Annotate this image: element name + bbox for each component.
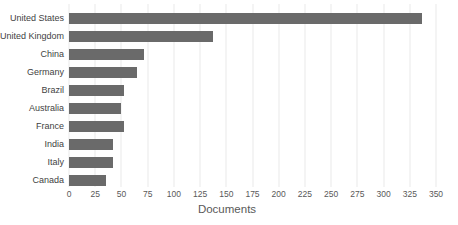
category-label: China (0, 49, 64, 59)
x-tick-label: 125 (193, 189, 207, 199)
category-label: India (0, 139, 64, 149)
x-tick-label: 325 (403, 189, 417, 199)
x-tick-label: 150 (219, 189, 233, 199)
gridline (226, 4, 227, 187)
x-axis-tick-labels: 0255075100125150175200225250275300325350 (0, 189, 458, 201)
gridline (252, 4, 253, 187)
x-axis-title: Documents (198, 203, 256, 215)
gridline (357, 4, 358, 187)
plot-area (69, 4, 436, 187)
x-tick-label: 250 (324, 189, 338, 199)
bar-brazil (69, 85, 124, 96)
category-label: France (0, 121, 64, 131)
gridline (409, 4, 410, 187)
x-tick-label: 300 (376, 189, 390, 199)
x-tick-label: 50 (117, 189, 126, 199)
bar-italy (69, 157, 113, 168)
bar-australia (69, 103, 121, 114)
category-label: United Kingdom (0, 31, 64, 41)
gridline (278, 4, 279, 187)
bar-united-kingdom (69, 31, 213, 42)
x-tick-label: 25 (90, 189, 99, 199)
x-tick-label: 175 (245, 189, 259, 199)
bar-china (69, 49, 144, 60)
category-label: Brazil (0, 85, 64, 95)
gridline (331, 4, 332, 187)
x-tick-label: 225 (298, 189, 312, 199)
x-tick-label: 275 (350, 189, 364, 199)
gridline (436, 4, 437, 187)
bar-chart: United StatesUnited KingdomChinaGermanyB… (0, 0, 458, 225)
category-label: United States (0, 13, 64, 23)
x-tick-label: 75 (143, 189, 152, 199)
gridline (304, 4, 305, 187)
category-label: Germany (0, 67, 64, 77)
x-tick-label: 200 (272, 189, 286, 199)
bar-germany (69, 67, 137, 78)
x-tick-label: 0 (67, 189, 72, 199)
bar-united-states (69, 13, 422, 24)
gridline (383, 4, 384, 187)
bar-canada (69, 175, 106, 186)
bar-france (69, 121, 124, 132)
bar-india (69, 139, 113, 150)
category-label: Canada (0, 175, 64, 185)
category-label: Australia (0, 103, 64, 113)
category-label: Italy (0, 157, 64, 167)
x-tick-label: 350 (429, 189, 443, 199)
x-tick-label: 100 (167, 189, 181, 199)
